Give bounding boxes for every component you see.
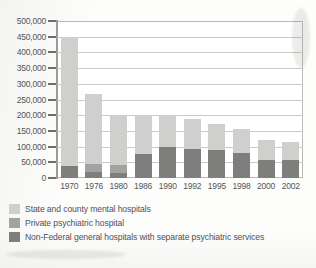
bar-segment bbox=[110, 173, 127, 178]
bar-segment bbox=[110, 165, 127, 173]
scan-artifact bbox=[292, 8, 310, 68]
y-axis-tick-mark bbox=[48, 36, 56, 38]
bar-segment bbox=[159, 115, 176, 146]
bar-stack bbox=[233, 21, 250, 178]
y-axis-tick-label: 150,000 bbox=[0, 126, 46, 136]
bar-segment bbox=[184, 119, 201, 149]
y-axis-tick-mark bbox=[48, 20, 56, 22]
bar-segment bbox=[184, 149, 201, 178]
bars-layer bbox=[57, 21, 303, 178]
bar-segment bbox=[282, 142, 299, 160]
bar-stack bbox=[135, 21, 152, 178]
y-axis-tick-mark bbox=[48, 99, 56, 101]
y-axis-tick-mark bbox=[48, 177, 56, 179]
bar-segment bbox=[110, 115, 127, 165]
y-axis-tick-label: 500,000 bbox=[0, 16, 46, 26]
bar-stack bbox=[258, 21, 275, 178]
bar-segment bbox=[233, 129, 250, 153]
y-axis-tick-label: 100,000 bbox=[0, 142, 46, 152]
bar-segment bbox=[208, 150, 225, 178]
bar-segment bbox=[233, 153, 250, 178]
y-axis-tick-label: 0 bbox=[0, 173, 46, 183]
legend-label: Non-Federal general hospitals with separ… bbox=[25, 232, 264, 242]
bar-stack bbox=[184, 21, 201, 178]
bar-segment bbox=[61, 166, 78, 178]
legend-label: Private psychiatric hospital bbox=[25, 218, 124, 228]
y-axis-tick-mark bbox=[48, 67, 56, 69]
scan-artifact bbox=[6, 250, 126, 259]
y-axis-tick-mark bbox=[48, 161, 56, 163]
y-axis-tick-label: 50,000 bbox=[0, 157, 46, 167]
legend-color-swatch bbox=[9, 204, 20, 214]
bar-segment bbox=[258, 160, 275, 178]
legend-color-swatch bbox=[9, 232, 20, 242]
y-axis-tick-label: 450,000 bbox=[0, 32, 46, 42]
bar-segment bbox=[258, 140, 275, 159]
y-axis-tick-mark bbox=[48, 114, 56, 116]
stacked-bar-chart: 500,000450,000400,000350,000300,000250,0… bbox=[0, 0, 316, 200]
bar-segment bbox=[61, 37, 78, 167]
bar-segment bbox=[85, 94, 102, 164]
bar-stack bbox=[159, 21, 176, 178]
legend-color-swatch bbox=[9, 218, 20, 228]
x-axis-label: 2002 bbox=[277, 181, 305, 191]
legend-item: Non-Federal general hospitals with separ… bbox=[9, 230, 309, 243]
y-axis-tick-label: 350,000 bbox=[0, 63, 46, 73]
y-axis-tick-label: 400,000 bbox=[0, 47, 46, 57]
y-axis-tick-label: 300,000 bbox=[0, 79, 46, 89]
bar-segment bbox=[208, 124, 225, 150]
y-axis-tick-mark bbox=[48, 51, 56, 53]
y-axis-tick-mark bbox=[48, 146, 56, 148]
bar-segment bbox=[282, 160, 299, 178]
bar-segment bbox=[85, 164, 102, 172]
y-axis-tick-mark bbox=[48, 83, 56, 85]
bar-stack bbox=[85, 21, 102, 178]
legend-item: Private psychiatric hospital bbox=[9, 216, 309, 229]
legend-item: State and county mental hospitals bbox=[9, 202, 309, 215]
bar-segment bbox=[135, 154, 152, 178]
y-axis-tick-mark bbox=[48, 130, 56, 132]
bar-segment bbox=[135, 115, 152, 154]
bar-stack bbox=[110, 21, 127, 178]
chart-legend: State and county mental hospitalsPrivate… bbox=[9, 202, 309, 244]
y-axis-tick-label: 250,000 bbox=[0, 95, 46, 105]
legend-label: State and county mental hospitals bbox=[25, 204, 151, 214]
y-axis-tick-label: 200,000 bbox=[0, 110, 46, 120]
bar-segment bbox=[85, 172, 102, 178]
bar-segment bbox=[159, 147, 176, 178]
bar-stack bbox=[208, 21, 225, 178]
bar-stack bbox=[61, 21, 78, 178]
